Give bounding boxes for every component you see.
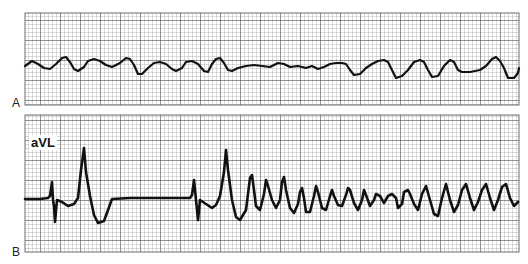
grid-a bbox=[25, 13, 519, 105]
lead-label-avl: aVL bbox=[29, 135, 57, 150]
strip-b bbox=[25, 115, 519, 252]
strip-a bbox=[25, 13, 519, 105]
panel-label-a: A bbox=[12, 96, 20, 110]
ecg-figure bbox=[0, 0, 528, 264]
panel-label-b: B bbox=[12, 245, 20, 259]
